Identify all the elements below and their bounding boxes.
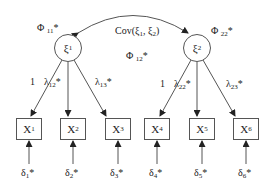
free-param-star: * — [118, 167, 123, 178]
phi-symbol: Φ — [126, 50, 133, 61]
indicator-x3: X3 — [105, 118, 131, 140]
indicator-index: 3 — [120, 125, 124, 133]
error-label-delta2: δ2* — [65, 167, 78, 182]
lambda-index: 23 — [231, 83, 238, 91]
indicator-x2: X2 — [60, 118, 86, 140]
free-param-star: * — [54, 22, 59, 33]
phi-index: 12 — [136, 55, 143, 63]
error-label-delta5: δ5* — [194, 167, 207, 182]
phi-symbol: Φ — [37, 22, 44, 33]
indicator-index: 5 — [204, 125, 208, 133]
cov-close: ) — [156, 25, 159, 36]
loading-label-x4: 1 — [160, 78, 165, 90]
loading-label-x3: λ13* — [95, 76, 112, 91]
free-param-star: * — [202, 167, 207, 178]
free-param-star: * — [73, 167, 78, 178]
covariance-phi12-label: Φ 12* — [126, 50, 148, 65]
loading-fixed: 1 — [30, 76, 35, 87]
phi-index: 22 — [221, 30, 228, 38]
indicator-symbol: X — [151, 123, 159, 135]
lambda-index: 12 — [49, 81, 56, 89]
error-label-delta4: δ4* — [149, 167, 162, 182]
loading-label-x1: 1 — [30, 76, 35, 88]
free-param-star: * — [157, 167, 162, 178]
indicator-symbol: X — [23, 123, 31, 135]
factor-index: 2 — [198, 44, 202, 52]
loading-label-x5: λ22* — [174, 78, 191, 93]
error-label-delta3: δ3* — [110, 167, 123, 182]
free-param-star: * — [228, 25, 233, 36]
covariance-label: Cov(ξ1, ξ2) — [115, 25, 159, 40]
indicator-index: 2 — [75, 125, 79, 133]
latent-factor-xi1: ξ1 — [54, 34, 82, 62]
error-label-delta6: δ6* — [238, 167, 251, 182]
indicator-symbol: X — [196, 123, 204, 135]
indicator-x1: X1 — [16, 118, 42, 140]
indicator-symbol: X — [112, 123, 120, 135]
indicator-symbol: X — [67, 123, 75, 135]
latent-factor-xi2: ξ2 — [183, 34, 211, 62]
variance-label-phi11: Φ 11* — [37, 22, 59, 37]
loading-fixed: 1 — [160, 78, 165, 89]
free-param-star: * — [56, 76, 61, 87]
free-param-star: * — [186, 78, 191, 89]
indicator-x4: X4 — [144, 118, 170, 140]
indicator-index: 6 — [248, 125, 252, 133]
indicator-x5: X5 — [189, 118, 215, 140]
indicator-index: 1 — [31, 125, 35, 133]
loading-label-x6: λ23* — [226, 78, 243, 93]
error-label-delta1: δ1* — [21, 167, 34, 182]
loading-label-x2: λ12* — [44, 76, 61, 91]
phi-index: 11 — [47, 27, 54, 35]
free-param-star: * — [107, 76, 112, 87]
free-param-star: * — [246, 167, 251, 178]
free-param-star: * — [143, 50, 148, 61]
lambda-index: 13 — [100, 81, 107, 89]
cov-text: Cov(ξ — [115, 25, 139, 36]
free-param-star: * — [238, 78, 243, 89]
indicator-x6: X6 — [233, 118, 259, 140]
lambda-index: 22 — [179, 83, 186, 91]
phi-symbol: Φ — [211, 25, 218, 36]
variance-label-phi22: Φ 22* — [211, 25, 233, 40]
cfa-path-diagram: ξ1 ξ2 Φ 11* Φ 22* Cov(ξ1, ξ2) Φ 12* 1 λ1… — [0, 0, 275, 188]
factor-index: 1 — [69, 44, 73, 52]
free-param-star: * — [29, 167, 34, 178]
indicator-index: 4 — [159, 125, 163, 133]
indicator-symbol: X — [240, 123, 248, 135]
